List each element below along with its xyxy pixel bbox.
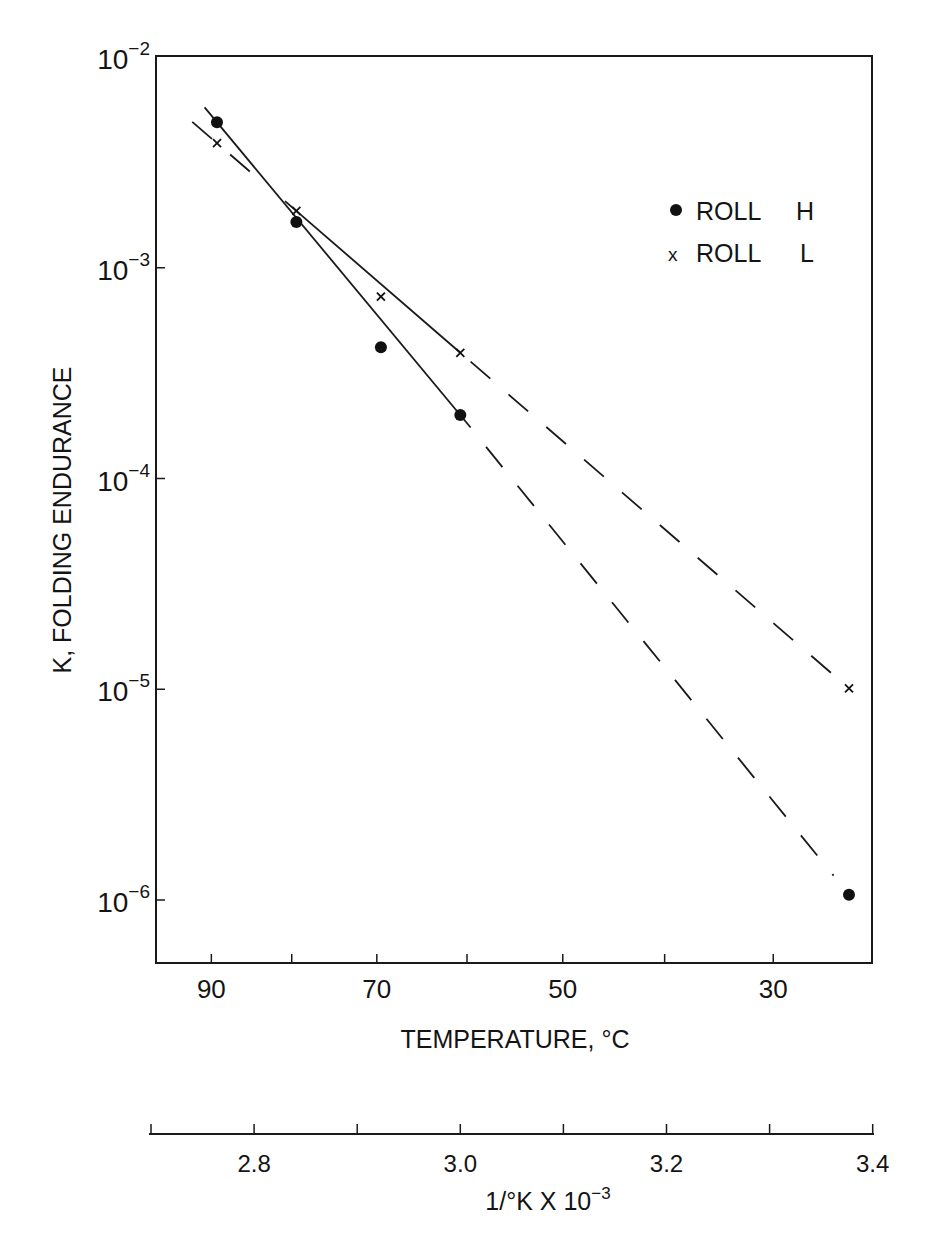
legend-dot-icon xyxy=(670,204,682,216)
roll-l-point xyxy=(845,684,853,692)
y-tick-label: 10−5 xyxy=(97,670,150,707)
roll-h-point xyxy=(454,409,466,421)
inverse-kelvin-tick-label: 2.8 xyxy=(237,1150,270,1177)
x-tick-label: 90 xyxy=(197,974,226,1004)
solid-fit-line xyxy=(205,107,471,427)
inverse-kelvin-tick-label: 3.2 xyxy=(650,1150,683,1177)
solid-fit-line xyxy=(285,201,460,353)
x-tick-label: 70 xyxy=(362,974,391,1004)
y-axis-ticks: 10−210−310−410−510−6 xyxy=(97,38,165,918)
dashed-fit-line xyxy=(471,362,834,675)
legend-x-icon: x xyxy=(668,244,678,265)
x-tick-label: 30 xyxy=(759,974,788,1004)
roll-h-point xyxy=(843,889,855,901)
y-tick-label: 10−4 xyxy=(97,460,150,497)
roll-l-point xyxy=(456,349,464,357)
roll-h-point xyxy=(211,116,223,128)
roll-l-point xyxy=(213,139,221,147)
y-tick-label: 10−2 xyxy=(97,38,150,75)
inverse-kelvin-tick-label: 3.4 xyxy=(856,1150,889,1177)
x-tick-label: 50 xyxy=(548,974,577,1004)
inverse-kelvin-axis-label: 1/°K X 10−3 xyxy=(485,1184,610,1215)
x-axis-celsius-ticks: 90705030 xyxy=(197,954,788,1004)
folding-endurance-chart: 10−210−310−410−510−6 90705030 ROLL H x R… xyxy=(0,0,931,1238)
legend-label-roll-l: ROLL L xyxy=(696,239,814,267)
x-axis-label: TEMPERATURE, °C xyxy=(401,1025,630,1053)
y-tick-label: 10−3 xyxy=(97,249,150,286)
inverse-kelvin-tick-label: 3.0 xyxy=(444,1150,477,1177)
plot-frame xyxy=(156,56,872,963)
y-axis-label: K, FOLDING ENDURANCE xyxy=(48,367,76,674)
roll-l-point xyxy=(292,207,300,215)
roll-l-point xyxy=(377,293,385,301)
legend: ROLL H x ROLL L xyxy=(668,197,814,267)
legend-label-roll-h: ROLL H xyxy=(696,197,814,225)
roll-h-point xyxy=(375,341,387,353)
roll-h-point xyxy=(290,216,302,228)
y-tick-label: 10−6 xyxy=(97,881,150,918)
x-axis-inverse-kelvin-ticks: 2.83.03.23.4 xyxy=(151,1124,889,1177)
data-points xyxy=(211,116,855,900)
dashed-fit-line xyxy=(486,447,833,876)
